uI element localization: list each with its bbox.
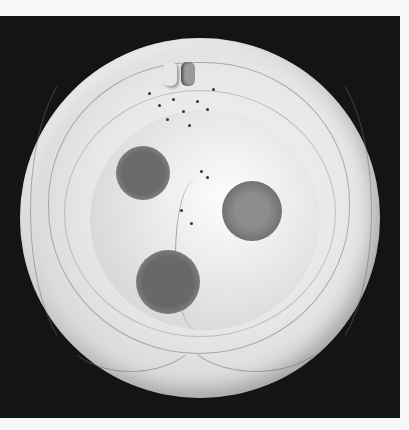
right-spot — [222, 181, 282, 241]
top-knob-right — [181, 62, 195, 86]
pit — [158, 104, 161, 107]
pit — [200, 170, 203, 173]
pit — [196, 100, 199, 103]
pit — [172, 98, 175, 101]
pit — [166, 118, 169, 121]
pit — [188, 124, 191, 127]
pit — [206, 108, 209, 111]
pit — [206, 176, 209, 179]
pit — [182, 110, 185, 113]
top-knob-left — [163, 62, 177, 86]
upper-left-spot — [116, 146, 170, 200]
lower-spot — [136, 250, 200, 314]
pit — [148, 92, 151, 95]
pit — [212, 88, 215, 91]
